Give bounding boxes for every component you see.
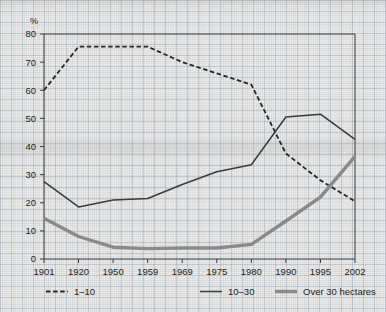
y-tick-label-30: 30	[25, 169, 36, 180]
x-tick-label-1975: 1975	[206, 266, 227, 277]
x-tick-label-1901: 1901	[33, 266, 54, 277]
x-tick-label-1959: 1959	[137, 266, 158, 277]
y-tick-label-70: 70	[25, 57, 36, 68]
legend-label-2: Over 30 hectares	[303, 286, 376, 297]
y-tick-label-80: 80	[25, 28, 36, 39]
line-chart: 01020304050607080 1901192019501959196919…	[0, 0, 386, 312]
series-line-1	[44, 114, 355, 207]
series-lines	[44, 47, 355, 249]
y-tick-label-20: 20	[25, 197, 36, 208]
series-line-2	[44, 156, 355, 248]
x-tick-label-1980: 1980	[241, 266, 262, 277]
legend-label-1: 10–30	[228, 286, 254, 297]
x-tick-label-1995: 1995	[310, 266, 331, 277]
x-tick-label-1950: 1950	[103, 266, 124, 277]
y-tick-label-40: 40	[25, 141, 36, 152]
x-axis-tick-marks	[44, 259, 355, 263]
y-tick-label-50: 50	[25, 113, 36, 124]
x-tick-label-2002: 2002	[344, 266, 365, 277]
chart-legend: 1–1010–30Over 30 hectares	[46, 286, 376, 297]
y-axis-unit-label: %	[30, 16, 38, 26]
y-axis-tick-labels: 01020304050607080	[25, 28, 36, 264]
y-tick-label-60: 60	[25, 85, 36, 96]
y-tick-label-0: 0	[31, 253, 36, 264]
x-tick-label-1920: 1920	[68, 266, 89, 277]
x-tick-label-1990: 1990	[275, 266, 296, 277]
legend-label-0: 1–10	[74, 286, 95, 297]
x-tick-label-1969: 1969	[172, 266, 193, 277]
y-axis-tick-marks	[40, 34, 44, 259]
y-tick-label-10: 10	[25, 225, 36, 236]
x-axis-tick-labels: 1901192019501959196919751980199019952002	[33, 266, 365, 277]
